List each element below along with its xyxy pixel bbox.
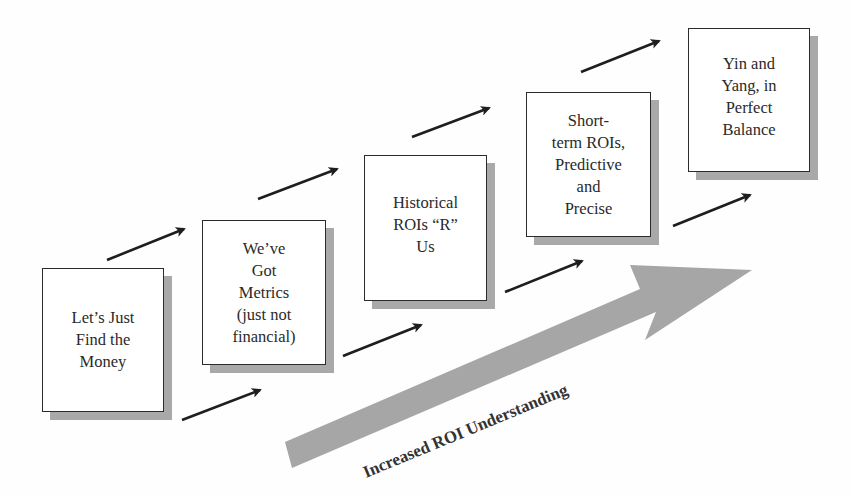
stage-5-label: Yin and Yang, in Perfect Balance xyxy=(721,53,776,141)
arrow-icon xyxy=(182,390,260,420)
stage-3-box: Historical ROIs “R” Us xyxy=(364,155,487,301)
stage-2-box: We’ve Got Metrics (just not financial) xyxy=(202,220,326,365)
progress-arrow-icon xyxy=(285,265,752,468)
stage-5-box: Yin and Yang, in Perfect Balance xyxy=(688,28,810,172)
stage-3-label: Historical ROIs “R” Us xyxy=(393,192,458,258)
stage-4-box: Short- term ROIs, Predictive and Precise xyxy=(526,92,651,237)
arrow-icon xyxy=(505,261,582,292)
arrow-icon xyxy=(258,169,337,199)
arrow-icon xyxy=(412,108,489,137)
arrow-icon xyxy=(581,41,659,72)
stage-4-label: Short- term ROIs, Predictive and Precise xyxy=(552,110,625,220)
stage-1-box: Let’s Just Find the Money xyxy=(42,268,164,412)
roi-maturity-diagram: Increased ROI Understanding Let’s Just F… xyxy=(0,0,852,497)
stage-1-label: Let’s Just Find the Money xyxy=(72,307,135,373)
stage-2-label: We’ve Got Metrics (just not financial) xyxy=(232,238,295,348)
arrow-icon xyxy=(343,325,421,356)
arrow-icon xyxy=(107,229,184,260)
progress-arrow-label: Increased ROI Understanding xyxy=(360,380,571,482)
arrow-icon xyxy=(673,195,750,226)
